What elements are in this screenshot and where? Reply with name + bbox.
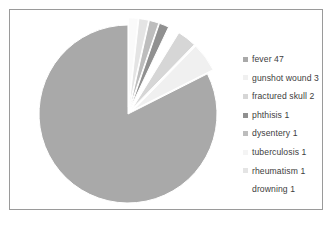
legend-item-label: phthisis 1 xyxy=(252,111,289,120)
legend-swatch-icon xyxy=(243,75,248,80)
legend-item[interactable]: fever 47 xyxy=(243,50,323,69)
legend-item[interactable]: dysentery 1 xyxy=(243,124,323,143)
pie-chart-plot-area xyxy=(10,10,242,209)
legend-item-label: drowning 1 xyxy=(252,185,295,194)
legend-swatch-icon xyxy=(243,57,248,62)
legend-item[interactable]: rheumatism 1 xyxy=(243,162,323,181)
legend-item[interactable]: tuberculosis 1 xyxy=(243,143,323,162)
legend-swatch-icon xyxy=(243,94,248,99)
legend-item-label: fever 47 xyxy=(252,55,284,64)
legend-item-label: tuberculosis 1 xyxy=(252,148,306,157)
legend-swatch-icon xyxy=(243,168,248,173)
legend-item-label: gunshot wound 3 xyxy=(252,74,319,83)
legend-item-label: rheumatism 1 xyxy=(252,167,305,176)
legend-item[interactable]: drowning 1 xyxy=(243,180,323,199)
pie-slices xyxy=(39,18,217,203)
legend-swatch-icon xyxy=(243,187,248,192)
legend-item[interactable]: gunshot wound 3 xyxy=(243,69,323,88)
legend-item-label: dysentery 1 xyxy=(252,129,298,138)
pie-chart xyxy=(10,10,242,209)
chart-frame: fever 47gunshot wound 3fractured skull 2… xyxy=(9,9,323,210)
legend-item-label: fractured skull 2 xyxy=(252,92,314,101)
legend-item[interactable]: phthisis 1 xyxy=(243,106,323,125)
legend-swatch-icon xyxy=(243,150,248,155)
chart-legend: fever 47gunshot wound 3fractured skull 2… xyxy=(243,50,323,199)
legend-swatch-icon xyxy=(243,113,248,118)
legend-swatch-icon xyxy=(243,131,248,136)
legend-item[interactable]: fractured skull 2 xyxy=(243,87,323,106)
